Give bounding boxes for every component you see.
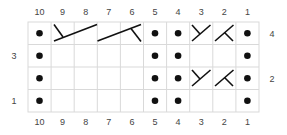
col-label: 10 [34,7,44,17]
purl-dot-icon [36,30,43,37]
col-label: 7 [106,7,111,17]
cable-right-cross-icon [98,25,142,42]
column-labels-bottom: 10 9 8 7 6 5 4 3 2 1 [34,117,249,127]
col-label: 7 [106,117,111,127]
purl-dot-icon [175,53,182,60]
col-label: 9 [60,117,65,127]
purl-dot-icon [175,98,182,105]
row-label-4: 4 [269,29,274,39]
col-label: 2 [222,117,227,127]
col-label: 9 [60,7,65,17]
purl-dot-icon [152,53,159,60]
col-label: 2 [222,7,227,17]
col-label: 6 [129,7,134,17]
col-label: 4 [176,7,181,17]
knitting-chart: 10 9 8 7 6 5 4 3 2 1 10 9 8 7 6 5 4 3 2 … [0,0,287,135]
col-label: 8 [83,7,88,17]
right-twist-icon [192,25,211,41]
purl-dot-icon [175,30,182,37]
col-label: 1 [245,7,250,17]
col-label: 1 [245,117,250,127]
col-label: 3 [199,7,204,17]
purl-dot-icon [244,98,251,105]
column-labels-top: 10 9 8 7 6 5 4 3 2 1 [34,7,249,17]
purl-dot-icon [152,75,159,82]
right-twist-icon [192,70,211,86]
row-label-1: 1 [11,96,16,106]
purl-dot-icon [175,75,182,82]
col-label: 8 [83,117,88,127]
row-label-2: 2 [269,74,274,84]
col-label: 4 [176,117,181,127]
purl-dot-icon [36,53,43,60]
col-label: 5 [152,117,157,127]
cable-left-cross-icon [54,25,97,42]
row-label-3: 3 [11,51,16,61]
col-label: 3 [199,117,204,127]
purl-dot-icon [244,30,251,37]
purl-dot-icon [152,98,159,105]
col-label: 10 [34,117,44,127]
col-label: 5 [152,7,157,17]
purl-dot-icon [36,75,43,82]
purl-dot-icon [36,98,43,105]
purl-dot-icon [152,30,159,37]
purl-dot-icon [244,75,251,82]
left-twist-icon [215,25,234,41]
purl-dot-icon [244,53,251,60]
left-twist-icon [215,70,234,86]
col-label: 6 [129,117,134,127]
